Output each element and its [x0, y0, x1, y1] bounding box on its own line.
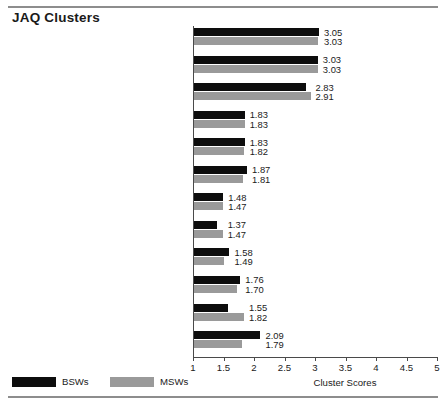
bar-pair [194, 221, 223, 238]
bar-pair [194, 28, 319, 45]
value-label-msws: 1.70 [245, 285, 263, 295]
bar-bsws [194, 331, 260, 339]
bar-bsws [194, 28, 319, 36]
bar-pair [194, 331, 260, 348]
bar-msws [194, 257, 224, 265]
bar-msws [194, 147, 244, 155]
x-tick [193, 357, 194, 361]
x-tick-label: 3.5 [339, 362, 352, 373]
x-tick [437, 357, 438, 361]
bar-msws [194, 340, 242, 348]
value-labels: 1.761.70 [245, 275, 263, 294]
chart-figure: JAQ Clusters 3.053.033.033.032.832.911.8… [0, 0, 446, 406]
bar-bsws [194, 221, 217, 229]
x-tick [254, 357, 255, 361]
bar-bsws [194, 193, 223, 201]
value-label-msws: 1.47 [228, 230, 246, 240]
value-labels: 1.581.49 [234, 248, 252, 267]
x-tick-label: 5 [434, 362, 439, 373]
bar-msws [194, 37, 318, 45]
value-labels: 1.551.82 [249, 303, 267, 322]
value-labels: 1.481.47 [228, 193, 246, 212]
bar-bsws [194, 56, 318, 64]
value-labels: 3.033.03 [323, 55, 341, 74]
bar-bsws [194, 138, 245, 146]
bar-msws [194, 285, 237, 293]
chart-title: JAQ Clusters [12, 10, 100, 25]
value-label-msws: 2.91 [316, 92, 334, 102]
value-labels: 1.371.47 [228, 220, 246, 239]
value-label-msws: 1.49 [234, 257, 252, 267]
bar-msws [194, 120, 245, 128]
x-tick-label: 3 [312, 362, 317, 373]
value-label-msws: 1.82 [250, 147, 268, 157]
top-divider [8, 6, 438, 8]
value-labels: 1.871.81 [252, 165, 270, 184]
bar-msws [194, 65, 318, 73]
value-label-msws: 1.81 [252, 175, 270, 185]
legend-swatch-bsws [12, 377, 56, 387]
legend-label-bsws: BSWs [62, 376, 89, 387]
x-tick-label: 2.5 [278, 362, 291, 373]
bar-pair [194, 304, 244, 321]
x-tick [224, 357, 225, 361]
bar-pair [194, 166, 247, 183]
x-tick [346, 357, 347, 361]
plot-area: 3.053.033.033.032.832.911.831.831.831.82… [0, 26, 446, 357]
x-tick [315, 357, 316, 361]
x-tick [376, 357, 377, 361]
x-tick-label: 4 [373, 362, 378, 373]
bottom-divider [8, 396, 438, 398]
bar-msws [194, 175, 243, 183]
bar-pair [194, 83, 311, 100]
value-labels: 3.053.03 [324, 28, 342, 47]
bar-pair [194, 138, 245, 155]
value-labels: 2.091.79 [265, 331, 283, 350]
value-label-msws: 3.03 [323, 65, 341, 75]
bar-pair [194, 276, 240, 293]
bar-msws [194, 313, 244, 321]
value-label-msws: 1.79 [265, 340, 283, 350]
bar-bsws [194, 166, 247, 174]
legend-swatch-msws [110, 377, 154, 387]
x-tick-label: 1 [190, 362, 195, 373]
value-label-msws: 3.03 [324, 37, 342, 47]
bar-msws [194, 230, 223, 238]
x-tick [285, 357, 286, 361]
bar-bsws [194, 248, 229, 256]
value-label-msws: 1.82 [249, 313, 267, 323]
value-labels: 1.831.82 [250, 138, 268, 157]
bar-pair [194, 111, 245, 128]
bar-pair [194, 248, 229, 265]
bar-msws [194, 92, 311, 100]
bar-msws [194, 202, 223, 210]
bar-pair [194, 193, 223, 210]
value-labels: 1.831.83 [250, 110, 268, 129]
value-labels: 2.832.91 [316, 83, 334, 102]
value-label-msws: 1.47 [228, 202, 246, 212]
legend-label-msws: MSWs [160, 376, 188, 387]
x-tick-label: 2 [251, 362, 256, 373]
bar-bsws [194, 304, 228, 312]
chart-legend: BSWsMSWs [0, 376, 446, 392]
bar-bsws [194, 111, 245, 119]
x-tick-label: 1.5 [217, 362, 230, 373]
bar-bsws [194, 276, 240, 284]
bar-pair [194, 56, 318, 73]
x-tick-label: 4.5 [400, 362, 413, 373]
x-tick [407, 357, 408, 361]
bar-bsws [194, 83, 306, 91]
value-label-msws: 1.83 [250, 120, 268, 130]
